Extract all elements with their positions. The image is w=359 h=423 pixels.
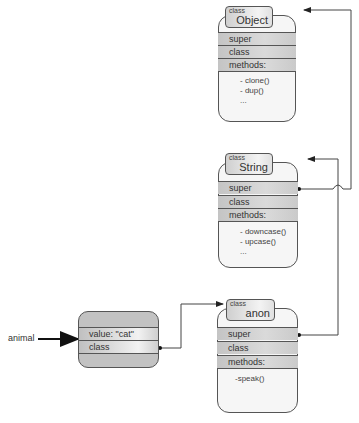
class-keyword: class xyxy=(230,300,246,307)
method-list: - clone() - dup() ... xyxy=(218,76,296,106)
method-item: - upcase() xyxy=(218,237,298,247)
method-list: - downcase() - upcase() ... xyxy=(218,227,298,257)
row-value: value: "cat" xyxy=(79,327,158,340)
method-item: -speak() xyxy=(217,374,298,384)
class-name-tab: class anon xyxy=(226,299,275,321)
row-methods: methods: xyxy=(217,355,298,369)
class-name-tab: class String xyxy=(225,153,273,175)
method-item: - downcase() xyxy=(218,227,298,237)
class-name: String xyxy=(239,161,268,173)
row-class: class xyxy=(218,45,296,58)
class-keyword: class xyxy=(229,7,245,14)
edge-anon-super-to-string xyxy=(297,159,338,337)
class-box-anon: class anon super class methods: -speak() xyxy=(217,308,298,413)
row-class: class xyxy=(79,340,158,354)
method-list: -speak() xyxy=(217,374,298,384)
variable-label: animal xyxy=(8,333,35,343)
class-name: Object xyxy=(236,14,268,26)
row-super: super xyxy=(218,32,296,45)
row-class: class xyxy=(218,195,298,208)
class-keyword: class xyxy=(229,154,245,161)
instance-box: value: "cat" class xyxy=(78,311,159,368)
class-box-object: class Object super class methods: - clon… xyxy=(218,15,296,122)
connector-lines xyxy=(0,0,359,423)
row-methods: methods: xyxy=(218,58,296,72)
class-name-tab: class Object xyxy=(225,6,273,28)
edge-string-super-to-object xyxy=(297,10,351,191)
class-box-string: class String super class methods: - down… xyxy=(218,162,298,268)
edge-instance-class-to-anon xyxy=(158,304,223,350)
method-item: ... xyxy=(218,96,296,106)
row-super: super xyxy=(218,181,298,194)
method-item: - clone() xyxy=(218,76,296,86)
row-class: class xyxy=(217,341,298,354)
method-item: ... xyxy=(218,247,298,257)
row-super: super xyxy=(217,327,298,340)
class-name: anon xyxy=(246,307,270,319)
method-item: - dup() xyxy=(218,86,296,96)
row-methods: methods: xyxy=(218,208,298,222)
